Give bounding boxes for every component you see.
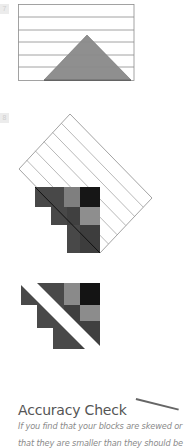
stepped-block: [35, 187, 100, 253]
section-heading: Accuracy Check: [18, 402, 127, 418]
diagram-step-9: [21, 283, 100, 349]
body-text-line: that they are smaller than they should b…: [18, 438, 183, 448]
diagram-step-7: [19, 5, 135, 81]
diagram-step-8: [19, 114, 152, 253]
body-text-line: If you find that your blocks are skewed …: [18, 421, 182, 431]
